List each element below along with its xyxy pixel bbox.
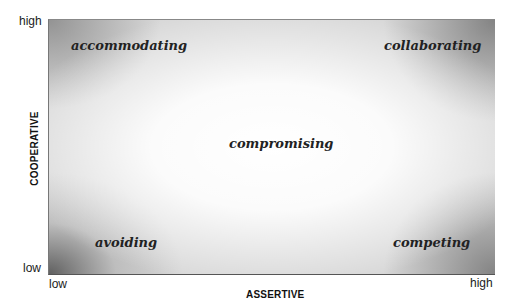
x-axis-low: low — [49, 277, 67, 291]
label-collaborating: collaborating — [384, 38, 481, 53]
y-axis-high: high — [19, 14, 42, 28]
x-axis-high: high — [470, 276, 493, 290]
y-axis-label: COOPERATIVE — [29, 109, 40, 189]
y-axis-low: low — [23, 261, 41, 275]
label-compromising: compromising — [229, 136, 333, 151]
x-axis-label: ASSERTIVE — [246, 289, 304, 300]
label-competing: competing — [393, 235, 470, 250]
label-accommodating: accommodating — [71, 38, 187, 53]
label-avoiding: avoiding — [95, 235, 157, 250]
